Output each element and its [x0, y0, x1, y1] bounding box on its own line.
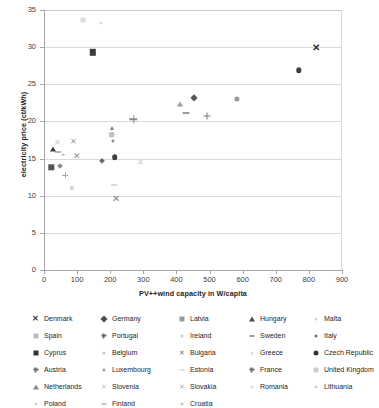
legend-item[interactable]: Croatia	[176, 399, 246, 408]
y-tick-label: 35	[10, 6, 36, 14]
legend-label: Denmark	[44, 315, 72, 322]
x-tick-label: 300	[128, 276, 158, 284]
legend-item[interactable]: United Kingdom	[310, 365, 379, 374]
legend-marker-icon	[246, 314, 257, 323]
y-axis-title: electricity price (ct/kWh)	[19, 60, 28, 210]
legend-item[interactable]: Luxembourg	[98, 365, 176, 374]
legend-label: Bulgaria	[190, 349, 216, 356]
legend-item[interactable]: Germany	[98, 314, 176, 323]
gridline	[45, 10, 341, 11]
x-tick-mark	[110, 270, 111, 274]
legend-item[interactable]: Belgium	[98, 348, 176, 357]
legend-item[interactable]: Lithuania	[310, 382, 379, 391]
legend-label: Spain	[44, 332, 62, 339]
legend-label: Ireland	[190, 332, 211, 339]
x-tick-label: 900	[327, 276, 357, 284]
x-tick-mark	[309, 270, 310, 274]
legend-label: Netherlands	[44, 383, 82, 390]
legend-item[interactable]: Spain	[30, 331, 98, 340]
legend-item[interactable]: Italy	[310, 331, 379, 340]
legend-label: Belgium	[112, 349, 137, 356]
legend-item[interactable]: ✕Slovakia	[176, 382, 246, 391]
legend-item[interactable]: Hungary	[246, 314, 310, 323]
x-tick-label: 800	[294, 276, 324, 284]
legend-label: Hungary	[260, 315, 286, 322]
x-tick-mark	[176, 270, 177, 274]
legend-marker-icon	[246, 331, 257, 340]
legend-item[interactable]: Latvia	[176, 314, 246, 323]
legend-marker-icon: ✕	[98, 382, 109, 391]
legend-label: Estonia	[190, 366, 213, 373]
x-tick-mark	[276, 270, 277, 274]
y-tick-mark	[40, 47, 44, 48]
legend-label: Czech Republic	[324, 349, 373, 356]
legend-marker-icon: ✕	[176, 382, 187, 391]
legend-label: Lithuania	[324, 383, 352, 390]
x-tick-label: 100	[62, 276, 92, 284]
legend-label: Romania	[260, 383, 288, 390]
x-tick-mark	[143, 270, 144, 274]
legend-item[interactable]: Poland	[30, 399, 98, 408]
legend-label: Greece	[260, 349, 283, 356]
legend-label: Cyprus	[44, 349, 66, 356]
legend-label: Latvia	[190, 315, 209, 322]
legend-marker-icon	[30, 331, 41, 340]
legend-label: Slovakia	[190, 383, 216, 390]
legend-item[interactable]: Austria	[30, 365, 98, 374]
gridline	[45, 84, 341, 85]
legend-item[interactable]: Malta	[310, 314, 379, 323]
x-tick-label: 0	[29, 276, 59, 284]
legend-label: Austria	[44, 366, 66, 373]
legend-item[interactable]: Estonia	[176, 365, 246, 374]
y-tick-mark	[40, 84, 44, 85]
legend-label: Portugal	[112, 332, 138, 339]
legend-label: Poland	[44, 400, 66, 407]
x-tick-label: 600	[228, 276, 258, 284]
legend-item[interactable]: France	[246, 365, 310, 374]
legend-label: Malta	[324, 315, 341, 322]
legend-item[interactable]: Portugal	[98, 331, 176, 340]
legend-marker-icon	[246, 365, 257, 374]
legend-label: Luxembourg	[112, 366, 151, 373]
x-tick-label: 500	[195, 276, 225, 284]
x-axis-line	[44, 270, 342, 271]
legend-marker-icon: ✕	[176, 348, 187, 357]
legend-marker-icon	[30, 382, 41, 391]
legend-marker-icon	[98, 348, 109, 357]
legend-label: Finland	[112, 400, 135, 407]
x-tick-mark	[243, 270, 244, 274]
legend-item[interactable]: Netherlands	[30, 382, 98, 391]
legend-item[interactable]: Finland	[98, 399, 176, 408]
x-tick-label: 700	[261, 276, 291, 284]
legend-item[interactable]: Romania	[246, 382, 310, 391]
x-tick-mark	[44, 270, 45, 274]
legend-marker-icon	[176, 314, 187, 323]
legend-marker-icon	[98, 365, 109, 374]
legend-marker-icon	[176, 399, 187, 408]
x-tick-mark	[210, 270, 211, 274]
gridline	[45, 121, 341, 122]
legend-item[interactable]: ✕Bulgaria	[176, 348, 246, 357]
legend-item[interactable]: Czech Republic	[310, 348, 379, 357]
legend-item[interactable]: Sweden	[246, 331, 310, 340]
legend-label: France	[260, 366, 282, 373]
gridline	[45, 47, 341, 48]
legend-marker-icon	[30, 365, 41, 374]
legend-marker-icon	[176, 331, 187, 340]
legend-item[interactable]: Cyprus	[30, 348, 98, 357]
chart-legend: ✕DenmarkGermanyLatviaHungaryMaltaSpainPo…	[30, 310, 355, 398]
legend-marker-icon	[30, 348, 41, 357]
legend-marker-icon	[310, 331, 321, 340]
legend-marker-icon: ✕	[30, 314, 41, 323]
y-tick-label: 5	[10, 229, 36, 237]
x-axis-title: PV++wind capacity in W/capita	[44, 289, 342, 298]
plot-area	[44, 10, 342, 270]
legend-item[interactable]: ✕Slovenia	[98, 382, 176, 391]
legend-marker-icon	[176, 365, 187, 374]
legend-item[interactable]: ✕Denmark	[30, 314, 98, 323]
legend-item[interactable]: Greece	[246, 348, 310, 357]
y-tick-label: 30	[10, 43, 36, 51]
legend-item[interactable]: Ireland	[176, 331, 246, 340]
x-tick-label: 200	[95, 276, 125, 284]
